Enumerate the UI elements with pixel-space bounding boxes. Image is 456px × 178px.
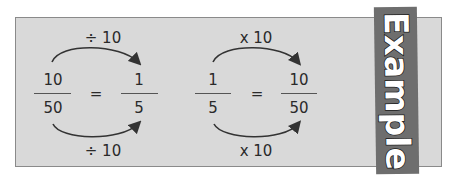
multiply-label-top: x 10 xyxy=(231,29,281,47)
multiply-label-bottom: x 10 xyxy=(231,142,281,160)
fraction-denominator: 50 xyxy=(279,99,319,117)
fraction-numerator: 10 xyxy=(33,71,73,89)
fraction-numerator: 1 xyxy=(119,71,159,89)
top-arrow-1 xyxy=(52,48,138,62)
fraction-bar xyxy=(34,93,71,94)
fraction-bar xyxy=(281,93,317,94)
bottom-arrow-2 xyxy=(214,124,298,137)
fraction-numerator: 10 xyxy=(279,71,319,89)
divide-label-top: ÷ 10 xyxy=(78,29,128,47)
example-banner: Example xyxy=(374,7,419,175)
equals-sign: = xyxy=(247,85,267,103)
fraction-denominator: 5 xyxy=(193,99,233,117)
divide-label-bottom: ÷ 10 xyxy=(78,142,128,160)
top-arrow-2 xyxy=(213,48,298,62)
bottom-arrow-1 xyxy=(53,124,138,137)
fraction-denominator: 5 xyxy=(119,99,159,117)
banner-label: Example xyxy=(376,11,417,169)
fraction-bar xyxy=(195,93,231,94)
fraction-bar xyxy=(121,93,158,94)
fraction-denominator: 50 xyxy=(33,99,73,117)
equals-sign: = xyxy=(86,85,106,103)
fraction-numerator: 1 xyxy=(193,71,233,89)
